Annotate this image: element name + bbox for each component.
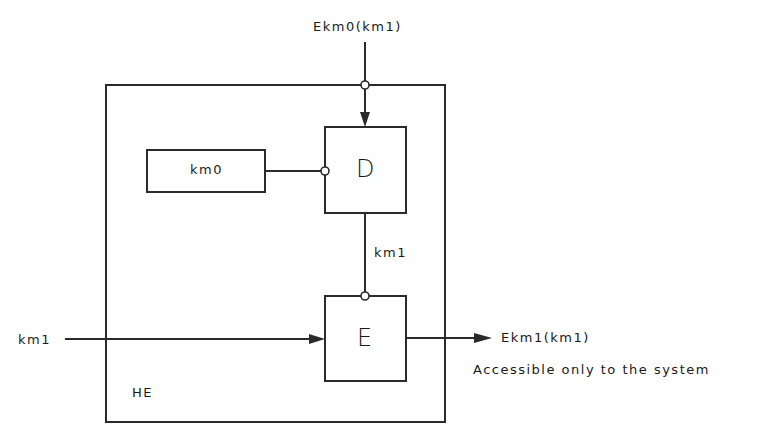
arrow-output-icon [474,333,492,343]
junction-d-input-circle-icon [321,167,329,175]
he-container-label: HE [132,385,153,400]
access-note: Accessible only to the system [473,362,710,377]
junction-e-input-circle-icon [361,292,369,300]
top-input-label: Ekm0(km1) [313,19,402,34]
arrow-into-e-icon [309,334,325,344]
junction-top-circle-icon [361,81,369,89]
decrypt-label: D [356,155,374,183]
left-input-label: km1 [18,332,51,347]
output-label: Ekm1(km1) [501,330,590,345]
encrypt-label: E [357,324,372,352]
arrow-into-d-icon [360,112,370,127]
internal-key-label: km1 [374,245,407,260]
km0-label: km0 [190,162,223,177]
